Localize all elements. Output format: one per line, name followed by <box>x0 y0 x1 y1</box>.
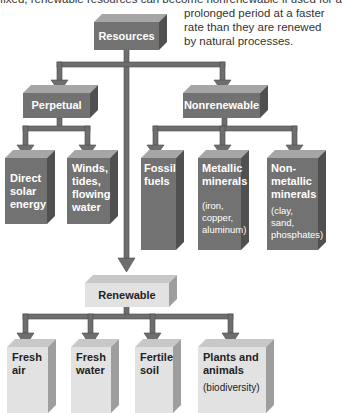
node-nonmetallic-minerals: Non-metallic minerals (clay, sand, phosp… <box>267 158 318 250</box>
note: (biodiversity) <box>203 381 261 394</box>
note: (clay, sand, phosphates) <box>271 205 314 241</box>
label: Fresh water <box>76 351 106 376</box>
label: Fossil fuels <box>144 162 176 187</box>
node-resources: Resources <box>94 22 159 50</box>
node-fossil-fuels: Fossil fuels <box>141 158 176 250</box>
label: Fresh air <box>12 351 42 376</box>
node-direct-solar-energy: Direct solar energy <box>5 158 47 224</box>
note: (iron, copper, aluminum) <box>202 200 237 236</box>
node-fresh-air: Fresh air <box>7 347 48 413</box>
label: Fertile soil <box>140 351 173 376</box>
node-plants-animals: Plants and animals (biodiversity) <box>198 347 266 413</box>
label: Plants and animals <box>203 351 259 376</box>
label: Metallic minerals <box>202 162 247 187</box>
node-renewable: Renewable <box>85 283 169 307</box>
node-fresh-water: Fresh water <box>71 347 111 413</box>
node-winds-tides-water: Winds, tides, flowing water <box>67 158 110 224</box>
node-perpetual: Perpetual <box>23 93 90 118</box>
node-fertile-soil: Fertile soil <box>135 347 173 413</box>
node-nonrenewable: Nonrenewable <box>183 93 260 118</box>
label: Non-metallic minerals <box>271 162 316 200</box>
node-metallic-minerals: Metallic minerals (iron, copper, aluminu… <box>198 158 241 250</box>
